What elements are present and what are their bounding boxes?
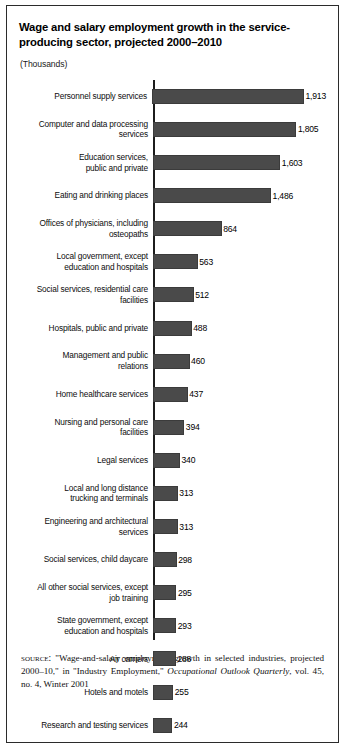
bar-value-label: 563 <box>199 257 213 267</box>
bar-track: 1,805 <box>153 113 326 146</box>
bar-row: Local government, except education and h… <box>19 245 326 278</box>
bar <box>153 552 177 567</box>
bar-row: Computer and data processing services1,8… <box>19 113 326 146</box>
bar-category-label: Local and long distance trucking and ter… <box>19 483 153 505</box>
bar-category-label: Legal services <box>19 455 153 466</box>
bar-row: Personnel supply services1,913 <box>19 80 326 113</box>
bar-value-label: 460 <box>191 356 205 366</box>
bar-category-label: All other social services, except job tr… <box>19 582 153 604</box>
bar-category-label: Offices of physicians, including osteopa… <box>19 218 153 240</box>
bar-category-label: Computer and data processing services <box>19 119 153 141</box>
bar-category-label: Research and testing services <box>19 720 153 731</box>
bar-track: 1,603 <box>153 146 326 179</box>
bar-row: Legal services340 <box>19 444 326 477</box>
bar-track: 394 <box>153 411 326 444</box>
bar-category-label: Education services, public and private <box>19 152 153 174</box>
bar <box>153 651 176 666</box>
bar-row: Nursing and personal care facilities394 <box>19 411 326 444</box>
bar <box>153 155 280 170</box>
bar-row: Hospitals, public and private488 <box>19 311 326 344</box>
bar <box>153 585 176 600</box>
bar-row: Local and long distance trucking and ter… <box>19 477 326 510</box>
bar-track: 244 <box>153 709 326 742</box>
bar-category-label: Social services, child daycare <box>19 554 153 565</box>
bar-track: 460 <box>153 345 326 378</box>
bar-track: 563 <box>153 245 326 278</box>
bar-row: Offices of physicians, including osteopa… <box>19 212 326 245</box>
bar-track: 295 <box>153 576 326 609</box>
bar-value-label: 295 <box>178 588 192 598</box>
bar-track: 437 <box>153 378 326 411</box>
bar <box>153 254 198 269</box>
bar <box>153 618 176 633</box>
bar-track: 340 <box>153 444 326 477</box>
units-label: (Thousands) <box>20 59 326 69</box>
bar-track: 293 <box>153 609 326 642</box>
bar <box>153 718 172 733</box>
bar-category-label: Local government, except education and h… <box>19 251 153 273</box>
bar-row: Research and testing services244 <box>19 709 326 742</box>
figure-container: Wage and salary employment growth in the… <box>0 0 345 749</box>
bar-value-label: 437 <box>189 389 203 399</box>
bar-track: 1,913 <box>152 80 326 113</box>
bar-row: Management and public relations460 <box>19 345 326 378</box>
bar <box>152 89 304 104</box>
bar-row: All other social services, except job tr… <box>19 576 326 609</box>
bar-value-label: 488 <box>193 323 207 333</box>
bar-category-label: Hotels and motels <box>19 687 153 698</box>
bar-category-label: Hospitals, public and private <box>19 323 153 334</box>
bar-track: 488 <box>153 311 326 344</box>
bar-category-label: Management and public relations <box>19 350 153 372</box>
bar-row: State government, except education and h… <box>19 609 326 642</box>
bar-value-label: 1,805 <box>298 124 319 134</box>
bar-row: Hotels and motels255 <box>19 676 326 709</box>
figure-frame: Wage and salary employment growth in the… <box>6 5 339 743</box>
bar-track: 255 <box>153 676 326 709</box>
bar-category-label: Air carriers <box>19 654 153 665</box>
bar <box>153 287 194 302</box>
bar <box>153 321 192 336</box>
bar <box>153 122 296 137</box>
bar-value-label: 255 <box>175 687 189 697</box>
bar <box>153 420 184 435</box>
bar-value-label: 1,913 <box>305 91 326 101</box>
chart-rows: Personnel supply services1,913Computer a… <box>19 80 326 742</box>
bar-category-label: Personnel supply services <box>19 91 152 102</box>
bar <box>153 519 178 534</box>
bar-track: 313 <box>153 510 326 543</box>
bar-row: Social services, child daycare298 <box>19 543 326 576</box>
bar-value-label: 288 <box>177 654 191 664</box>
bar-row: Engineering and architectural services31… <box>19 510 326 543</box>
bar-track: 288 <box>153 642 326 675</box>
bar-value-label: 1,603 <box>282 158 303 168</box>
bar <box>153 221 222 236</box>
bar-row: Social services, residential care facili… <box>19 278 326 311</box>
bar <box>153 453 180 468</box>
chart-title: Wage and salary employment growth in the… <box>19 20 319 50</box>
bar <box>153 188 271 203</box>
bar-value-label: 293 <box>178 621 192 631</box>
bar-category-label: Engineering and architectural services <box>19 516 153 538</box>
bar-row: Home healthcare services437 <box>19 378 326 411</box>
bar-row: Education services, public and private1,… <box>19 146 326 179</box>
bar-track: 298 <box>153 543 326 576</box>
bar-value-label: 512 <box>195 290 209 300</box>
bar <box>153 486 178 501</box>
bar-category-label: Nursing and personal care facilities <box>19 417 153 439</box>
bar-value-label: 298 <box>178 555 192 565</box>
bar-chart: Personnel supply services1,913Computer a… <box>19 80 326 640</box>
bar-value-label: 864 <box>223 224 237 234</box>
bar-row: Air carriers288 <box>19 642 326 675</box>
bar-category-label: Social services, residential care facili… <box>19 284 153 306</box>
bar-row: Eating and drinking places1,486 <box>19 179 326 212</box>
bar-value-label: 340 <box>182 455 196 465</box>
bar-value-label: 313 <box>179 522 193 532</box>
bar-track: 864 <box>153 212 326 245</box>
bar-value-label: 394 <box>186 422 200 432</box>
bar-value-label: 1,486 <box>273 191 294 201</box>
bar-category-label: State government, except education and h… <box>19 615 153 637</box>
bar-track: 1,486 <box>153 179 326 212</box>
bar <box>153 685 173 700</box>
bar <box>153 354 190 369</box>
bar-value-label: 244 <box>174 720 188 730</box>
